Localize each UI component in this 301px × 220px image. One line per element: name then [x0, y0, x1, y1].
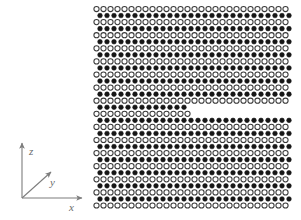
filled-atom	[266, 53, 271, 58]
filled-atom	[266, 197, 271, 202]
filled-atom	[112, 13, 117, 18]
open-atom	[94, 124, 99, 129]
open-atom	[248, 177, 253, 182]
axis-label-x: x	[68, 201, 74, 213]
filled-atom	[203, 118, 208, 123]
filled-atom	[266, 157, 271, 162]
open-atom	[255, 137, 260, 142]
open-atom	[206, 46, 211, 51]
open-atom	[283, 203, 288, 208]
open-atom	[220, 85, 225, 90]
open-atom	[262, 164, 267, 169]
open-atom	[185, 72, 190, 77]
open-atom	[178, 59, 183, 64]
filled-atom	[273, 26, 278, 31]
filled-atom	[287, 197, 292, 202]
open-atom	[101, 33, 106, 38]
open-atom	[150, 33, 155, 38]
filled-atom	[98, 170, 103, 175]
open-atom	[178, 151, 183, 156]
filled-atom	[147, 131, 152, 136]
open-atom	[122, 124, 127, 129]
filled-atom	[259, 118, 264, 123]
filled-atom	[154, 79, 159, 84]
filled-atom	[245, 92, 250, 97]
open-atom	[227, 33, 232, 38]
open-atom	[143, 72, 148, 77]
open-atom	[164, 59, 169, 64]
open-atom	[262, 151, 267, 156]
filled-atom	[161, 105, 166, 110]
open-atom	[101, 85, 106, 90]
filled-atom	[245, 53, 250, 58]
open-atom	[220, 124, 225, 129]
open-atom	[122, 85, 127, 90]
filled-atom	[147, 157, 152, 162]
open-atom	[269, 151, 274, 156]
filled-atom	[119, 53, 124, 58]
open-atom	[164, 98, 169, 103]
open-atom	[94, 137, 99, 142]
filled-atom	[189, 79, 194, 84]
open-atom	[269, 98, 274, 103]
filled-atom	[140, 144, 145, 149]
filled-atom	[112, 197, 117, 202]
open-atom	[234, 20, 239, 25]
filled-atom	[140, 13, 145, 18]
filled-atom	[196, 92, 201, 97]
open-atom	[143, 33, 148, 38]
open-atom	[255, 85, 260, 90]
open-atom	[101, 59, 106, 64]
filled-atom	[140, 197, 145, 202]
open-atom	[241, 98, 246, 103]
open-atom	[122, 46, 127, 51]
filled-atom	[280, 118, 285, 123]
filled-atom	[189, 184, 194, 189]
open-atom	[248, 33, 253, 38]
filled-atom	[252, 118, 257, 123]
open-atom	[199, 124, 204, 129]
filled-atom	[147, 184, 152, 189]
open-atom	[129, 72, 134, 77]
open-atom	[157, 6, 162, 11]
open-atom	[262, 85, 267, 90]
open-atom	[122, 177, 127, 182]
open-atom	[192, 203, 197, 208]
filled-atom	[287, 79, 292, 84]
open-atom	[171, 164, 176, 169]
filled-atom	[238, 157, 243, 162]
open-atom	[206, 177, 211, 182]
filled-atom	[105, 157, 110, 162]
filled-atom	[140, 26, 145, 31]
filled-atom	[140, 118, 145, 123]
filled-atom	[217, 144, 222, 149]
open-atom	[136, 190, 141, 195]
filled-atom	[154, 197, 159, 202]
open-atom	[213, 190, 218, 195]
filled-atom	[245, 26, 250, 31]
open-atom	[262, 33, 267, 38]
open-atom	[192, 164, 197, 169]
open-atom	[241, 59, 246, 64]
filled-atom	[196, 39, 201, 44]
open-atom	[185, 137, 190, 142]
filled-atom	[105, 197, 110, 202]
open-atom	[227, 20, 232, 25]
filled-atom	[126, 197, 131, 202]
filled-atom	[245, 144, 250, 149]
filled-atom	[119, 105, 124, 110]
filled-atom	[266, 170, 271, 175]
filled-atom	[133, 157, 138, 162]
filled-atom	[266, 13, 271, 18]
open-atom	[136, 203, 141, 208]
open-atom	[157, 137, 162, 142]
open-atom	[213, 177, 218, 182]
open-atom	[192, 6, 197, 11]
open-atom	[115, 59, 120, 64]
open-atom	[234, 6, 239, 11]
filled-atom	[126, 92, 131, 97]
filled-atom	[98, 92, 103, 97]
open-atom	[213, 137, 218, 142]
open-atom	[94, 164, 99, 169]
open-atom	[213, 6, 218, 11]
